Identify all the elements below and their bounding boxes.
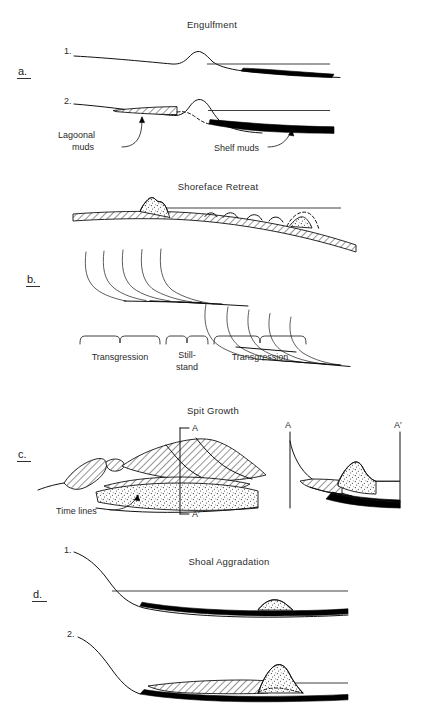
panel-b-letter: b.	[27, 273, 36, 285]
panel-b-surface-l-c	[286, 361, 350, 367]
panel-b-bracket-stillstand: Still- stand	[166, 336, 208, 372]
panel-a-letter: a.	[18, 65, 27, 77]
panel-d-letter: d.	[33, 588, 42, 600]
panel-a-stage-2: 2.	[64, 96, 334, 133]
panel-a-stage-1-number: 1.	[64, 46, 72, 56]
panel-b-bracket-right-label: Transgression	[232, 352, 289, 362]
panel-b-title: Shoreface Retreat	[178, 181, 259, 192]
panel-c-spit-tip-trailing-line	[38, 483, 64, 490]
panel-b-clinoform-u4	[141, 250, 192, 303]
panel-a-stage-2-lagoonal-muds	[113, 107, 177, 115]
panel-d-stage-2-number: 2.	[67, 629, 75, 639]
panel-b-bracket-middle-label-line1: Still-	[178, 350, 196, 360]
panel-a-title: Engulfment	[187, 19, 237, 30]
panel-b-clinoform-u5	[160, 249, 214, 304]
panel-c-section-label-A-top: A	[192, 423, 198, 433]
panel-d-stage-2: 2.	[67, 629, 348, 702]
panel-c-spit-stippled-platform	[96, 483, 258, 510]
panel-c-xsect-label-A-prime: A′	[394, 420, 402, 430]
panel-c-letter-group: c.	[17, 448, 31, 462]
panel-b-clinoform-set-upper	[85, 249, 214, 304]
panel-d-stage-1-number: 1.	[64, 545, 72, 555]
panel-a-letter-group: a.	[17, 65, 31, 79]
panel-b-barrier-mound-right	[290, 217, 312, 228]
figure-root: Engulfment a. 1. 2.	[0, 0, 426, 721]
panel-d-stage-2-shoal	[258, 665, 303, 693]
panel-c-spit-connector-knob	[106, 459, 124, 471]
panel-c-spit-map-view: A A′ Time lines	[38, 423, 266, 519]
panel-b-bracket-left-label: Transgression	[92, 352, 149, 362]
panel-c-letter: c.	[18, 448, 27, 460]
panel-b-surface-u-c	[178, 302, 248, 306]
panel-b-letter-group: b.	[26, 273, 40, 287]
panel-a-stage-1-shelf-muds	[241, 68, 334, 77]
time-lines-label: Time lines	[56, 506, 97, 516]
panel-d-shoal-aggradation: Shoal Aggradation d. 1. 2.	[32, 545, 348, 702]
panel-c-xsect-lagoonal-wedge	[300, 479, 342, 494]
panel-d-stage-2-lagoonal-muds	[148, 680, 268, 694]
shelf-muds-label: Shelf muds	[214, 143, 260, 153]
panel-b-shoreface-retreat: Shoreface Retreat b.	[26, 181, 356, 372]
lagoonal-muds-label-line2: muds	[72, 142, 95, 152]
panel-a-stage-1: 1.	[64, 46, 340, 78]
panel-c-spit-growth: Spit Growth c.	[17, 405, 402, 519]
panel-b-clinoform-l5	[290, 317, 341, 365]
panel-c-spit-recurve-tip	[64, 458, 107, 489]
panel-c-cross-section-view: A A′	[285, 420, 402, 508]
panel-c-xsect-label-A: A	[285, 420, 291, 430]
lagoonal-muds-label-line1: Lagoonal	[58, 130, 95, 140]
panel-a-annotation-shelf-muds: Shelf muds	[214, 130, 294, 153]
panel-a-engulfment: Engulfment a. 1. 2.	[17, 19, 340, 153]
panel-a-stage-2-number: 2.	[64, 96, 72, 106]
panel-b-bump-4	[269, 217, 283, 222]
panel-b-bracket-middle-label-line2: stand	[176, 362, 198, 372]
panel-c-title: Spit Growth	[187, 405, 239, 416]
panel-d-stage-2-profile	[78, 637, 140, 694]
panel-b-bounding-surface-upper	[124, 301, 248, 306]
panel-b-brace-left	[80, 336, 160, 344]
panel-d-title: Shoal Aggradation	[188, 556, 269, 567]
lagoonal-muds-leader-line	[122, 117, 142, 147]
panel-d-letter-group: d.	[32, 588, 47, 602]
panel-d-stage-1-shelf-muds	[140, 602, 348, 616]
panel-a-stage-2-shelf-muds	[209, 120, 334, 134]
panel-b-bracket-transgression-left: Transgression	[80, 336, 160, 362]
panel-c-spit-main-body	[122, 439, 266, 481]
panel-c-section-label-A-prime-bottom: A′	[192, 509, 200, 519]
geological-diagram-svg: Engulfment a. 1. 2.	[0, 0, 426, 721]
panel-a-annotation-lagoonal-muds: Lagoonal muds	[58, 117, 145, 152]
lagoonal-muds-arrowhead	[139, 117, 144, 123]
panel-b-brace-middle	[166, 336, 208, 344]
